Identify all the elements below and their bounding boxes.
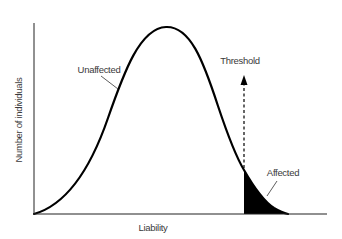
threshold-arrowhead-icon bbox=[241, 75, 248, 85]
affected-leader-line bbox=[267, 181, 277, 196]
affected-label: Affected bbox=[267, 167, 299, 178]
threshold-label: Threshold bbox=[220, 55, 260, 66]
unaffected-label: Unaffected bbox=[78, 64, 121, 75]
x-axis-label: Liability bbox=[139, 222, 169, 233]
liability-threshold-diagram: Unaffected Threshold Affected Liability … bbox=[0, 0, 342, 239]
unaffected-leader-line bbox=[101, 76, 118, 89]
y-axis-label: Number of individuals bbox=[13, 77, 24, 163]
